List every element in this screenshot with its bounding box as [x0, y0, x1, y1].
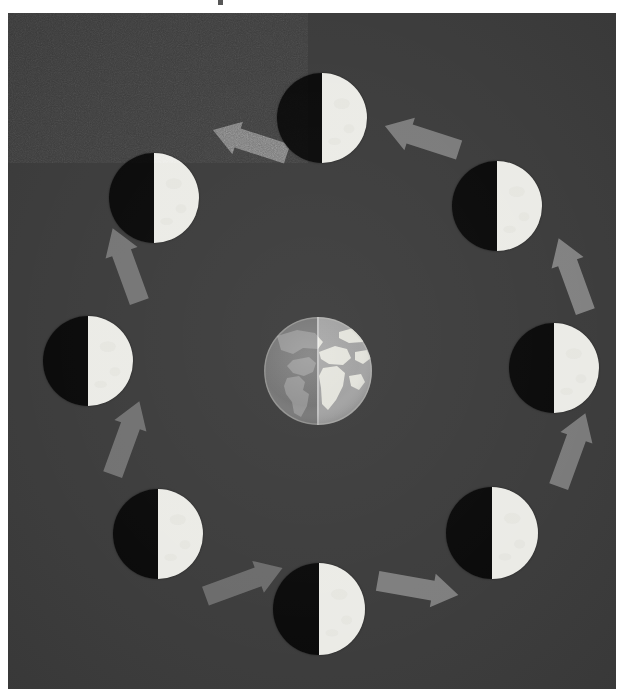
moon-lit-half — [492, 487, 538, 579]
moon-dark-half — [109, 153, 154, 243]
moon-lit-half — [497, 161, 542, 251]
moon-lit-half — [319, 563, 365, 655]
moon-dark-half — [113, 489, 158, 579]
moon-bottom — [273, 563, 365, 655]
moon-lit-half — [158, 489, 203, 579]
moon-top — [277, 73, 367, 163]
moon-lit-half — [154, 153, 199, 243]
earth-globe — [263, 316, 373, 426]
arrow-glyph-icon — [375, 564, 462, 612]
moon-lit-half — [88, 316, 133, 406]
moon-dark-half — [452, 161, 497, 251]
arrow-glyph-icon — [543, 408, 602, 493]
arrow-top-right-to-top — [380, 110, 465, 166]
moon-dark-half — [273, 563, 319, 655]
moon-left — [43, 316, 133, 406]
moon-bottom-right — [446, 487, 538, 579]
arrow-right-to-top-right — [543, 233, 602, 318]
moon-bottom-left — [113, 489, 203, 579]
arrow-glyph-icon — [97, 396, 156, 481]
moon-dark-half — [43, 316, 88, 406]
arrow-bottom-right-to-right — [543, 408, 602, 493]
moon-dark-half — [446, 487, 492, 579]
scan-artifact-mark — [218, 0, 223, 5]
arrow-glyph-icon — [543, 233, 602, 318]
moon-dark-half — [509, 323, 554, 413]
arrow-bottom-to-bottom-right — [375, 564, 462, 612]
figure-page — [0, 0, 623, 698]
arrow-left-to-bottom-left — [97, 396, 156, 481]
moon-dark-half — [277, 73, 322, 163]
moon-right — [509, 323, 599, 413]
arrow-glyph-icon — [380, 110, 465, 166]
earth-illustration — [263, 316, 373, 426]
moon-phases-diagram — [8, 13, 616, 689]
film-grain-overlay — [8, 13, 308, 163]
moon-lit-half — [554, 323, 599, 413]
moon-top-right — [452, 161, 542, 251]
moon-top-left — [109, 153, 199, 243]
moon-lit-half — [322, 73, 367, 163]
